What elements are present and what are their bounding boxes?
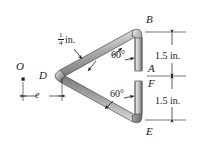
bar-segment-lower-left <box>60 76 137 122</box>
label-point-a: A <box>148 63 155 74</box>
label-dimension-top: 1.5 in. <box>155 51 180 61</box>
label-point-f: F <box>148 78 155 89</box>
label-point-e: E <box>146 126 153 137</box>
thickness-unit: in. <box>65 34 75 45</box>
label-point-b: B <box>146 14 153 25</box>
leader-angle-top-right <box>125 58 134 60</box>
label-angle-top: 60° <box>111 50 125 60</box>
label-dimension-bottom: 1.5 in. <box>155 96 180 106</box>
label-thickness: 1 4 in. <box>58 32 75 47</box>
fraction-one-quarter: 1 4 <box>58 32 64 47</box>
label-dimension-e: e <box>35 90 39 100</box>
fraction-denominator: 4 <box>58 39 64 47</box>
leader-angle-bottom-right <box>124 96 134 98</box>
label-point-o: O <box>16 61 24 72</box>
figure-canvas: O D B A F E e 1.5 in. 1.5 in. 60° 60° 1 … <box>0 0 198 152</box>
diagram-svg <box>0 0 198 152</box>
leader-thickness-upper <box>74 49 82 59</box>
label-point-d: D <box>39 70 47 81</box>
point-o-marker <box>22 78 25 81</box>
dimension-right-group <box>145 32 186 120</box>
fraction-numerator: 1 <box>58 32 64 39</box>
label-angle-bottom: 60° <box>110 89 124 99</box>
bar-segment-right-upper <box>135 38 142 71</box>
bar-segment-right-lower <box>135 81 142 114</box>
